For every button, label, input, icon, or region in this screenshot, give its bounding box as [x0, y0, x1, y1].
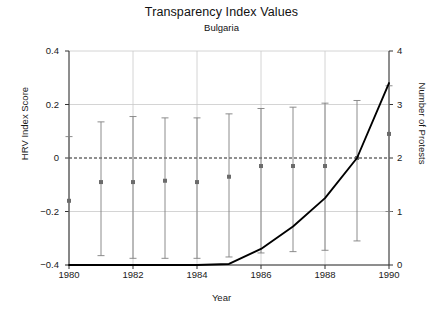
- data-point-hrv: [195, 180, 199, 184]
- y-tick-label-right: 1: [397, 206, 423, 217]
- x-tick-label: 1980: [47, 269, 91, 280]
- y-tick-label-left: 0: [25, 152, 59, 163]
- plot-area: [0, 0, 443, 313]
- y-tick-label-left: 0.4: [25, 45, 59, 56]
- x-tick-label: 1982: [111, 269, 155, 280]
- data-point-hrv: [67, 199, 71, 203]
- x-tick-label: 1984: [175, 269, 219, 280]
- x-tick-label: 1988: [303, 269, 347, 280]
- data-point-hrv: [163, 179, 167, 183]
- chart-figure: Transparency Index Values Bulgaria HRV I…: [0, 0, 443, 313]
- data-point-hrv: [227, 175, 231, 179]
- y-tick-label-left: 0.2: [25, 99, 59, 110]
- y-tick-label-right: 4: [397, 45, 423, 56]
- x-tick-label: 1990: [367, 269, 411, 280]
- x-tick-label: 1986: [239, 269, 283, 280]
- y-tick-label-left: −0.2: [25, 206, 59, 217]
- data-point-hrv: [291, 164, 295, 168]
- data-point-hrv: [99, 180, 103, 184]
- data-point-hrv: [259, 164, 263, 168]
- data-point-hrv: [323, 164, 327, 168]
- data-point-hrv: [131, 180, 135, 184]
- y-tick-label-right: 3: [397, 99, 423, 110]
- y-tick-label-right: 2: [397, 152, 423, 163]
- data-point-hrv: [387, 132, 391, 136]
